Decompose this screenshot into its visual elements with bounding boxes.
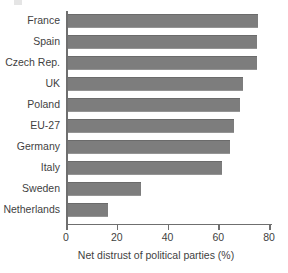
x-axis-tick-label: 80 bbox=[263, 231, 275, 243]
bar bbox=[68, 77, 243, 91]
x-axis-tick-label: 40 bbox=[162, 231, 174, 243]
bar bbox=[68, 203, 109, 217]
y-axis-label: Spain bbox=[0, 34, 63, 55]
bar bbox=[68, 98, 241, 112]
x-axis-tick-label: 0 bbox=[63, 231, 69, 243]
x-axis-tick-mark bbox=[218, 225, 220, 230]
bar bbox=[68, 56, 257, 70]
x-axis-tick-label: 60 bbox=[212, 231, 224, 243]
plot-area bbox=[66, 11, 271, 224]
x-axis-tick-mark bbox=[269, 225, 271, 230]
bar-row bbox=[68, 160, 271, 181]
x-axis-title: Net distrust of political parties (%) bbox=[0, 249, 288, 261]
bar-row bbox=[68, 97, 271, 118]
bar-row bbox=[68, 202, 271, 223]
bar-row bbox=[68, 55, 271, 76]
y-axis-label: Czech Rep. bbox=[0, 55, 63, 76]
x-axis-tick-mark bbox=[168, 225, 170, 230]
y-axis-label: Netherlands bbox=[0, 202, 63, 223]
y-axis-label: UK bbox=[0, 76, 63, 97]
bar-row bbox=[68, 13, 271, 34]
bar-row bbox=[68, 118, 271, 139]
bar-row bbox=[68, 181, 271, 202]
bar-row bbox=[68, 76, 271, 97]
bar bbox=[68, 14, 258, 28]
x-axis-tick-labels: 020406080 bbox=[0, 231, 288, 245]
y-axis-label: EU-27 bbox=[0, 118, 63, 139]
bar-chart-figure: France Spain Czech Rep. UK Poland EU-27 … bbox=[0, 0, 288, 273]
bar bbox=[68, 161, 223, 175]
x-axis-tick-marks bbox=[66, 225, 272, 230]
y-axis-label: France bbox=[0, 13, 63, 34]
y-axis-label: Sweden bbox=[0, 181, 63, 202]
bar-row bbox=[68, 34, 271, 55]
y-axis-label: Italy bbox=[0, 160, 63, 181]
bar-row bbox=[68, 139, 271, 160]
bar bbox=[68, 119, 234, 133]
y-axis-category-labels: France Spain Czech Rep. UK Poland EU-27 … bbox=[0, 13, 63, 224]
x-axis-tick-label: 20 bbox=[111, 231, 123, 243]
x-axis-tick-mark bbox=[66, 225, 68, 230]
cropped-edge-artifact bbox=[14, 0, 22, 5]
bar-series bbox=[68, 13, 271, 224]
bar bbox=[68, 140, 230, 154]
bar bbox=[68, 182, 142, 196]
y-axis-label: Germany bbox=[0, 139, 63, 160]
x-axis-tick-mark bbox=[117, 225, 119, 230]
y-axis-label: Poland bbox=[0, 97, 63, 118]
bar bbox=[68, 35, 257, 49]
